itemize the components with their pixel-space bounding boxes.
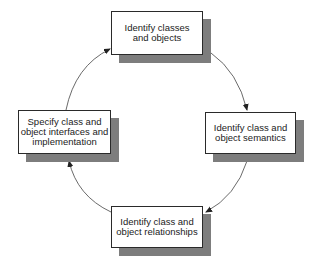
node-identify-class-semantics: Identify class and object semantics	[205, 112, 296, 154]
arrow-right-to-bottom	[206, 161, 247, 212]
arrow-bottom-to-left	[69, 161, 111, 212]
process-cycle-diagram: Identify classes and objects Identify cl…	[0, 0, 317, 269]
node-label: Identify classes and objects	[125, 23, 190, 43]
arrow-top-to-right	[211, 53, 247, 110]
node-label: Identify class and object relationships	[116, 217, 197, 237]
node-label: Identify class and object semantics	[214, 123, 287, 143]
node-label: Specify class and object interfaces and …	[21, 117, 109, 147]
node-identify-class-relationships: Identify class and object relationships	[111, 206, 203, 248]
node-identify-classes-objects: Identify classes and objects	[111, 11, 203, 55]
node-specify-interfaces-implementation: Specify class and object interfaces and …	[18, 110, 111, 154]
arrow-left-to-top	[66, 49, 110, 110]
